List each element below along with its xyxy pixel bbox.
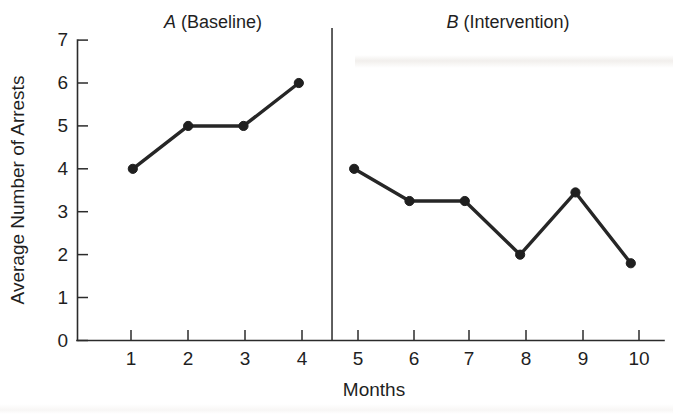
series-a-point-2 xyxy=(184,121,193,130)
y-tick-label-5: 5 xyxy=(57,115,68,136)
phase-b-rest: (Intervention) xyxy=(458,12,569,32)
y-tick-label-1: 1 xyxy=(57,287,68,308)
x-tick-label-3: 3 xyxy=(240,348,251,369)
y-axis-title: Average Number of Arrests xyxy=(7,76,28,305)
x-tick-label-5: 5 xyxy=(353,348,364,369)
series-b-line xyxy=(354,169,631,263)
x-tick-label-10: 10 xyxy=(628,348,649,369)
series-b-point-9 xyxy=(571,188,580,197)
y-tick-label-0: 0 xyxy=(57,330,68,351)
x-tick-label-8: 8 xyxy=(521,348,532,369)
y-tick-label-2: 2 xyxy=(57,244,68,265)
x-axis-title: Months xyxy=(343,379,405,400)
phase-b-letter: B xyxy=(446,12,458,32)
chart-figure: 0 1 2 3 4 5 6 7 1 2 3 4 5 6 7 8 9 10 Mon… xyxy=(0,0,673,414)
series-a-line xyxy=(133,83,299,169)
series-b-point-10 xyxy=(626,259,635,268)
x-tick-label-1: 1 xyxy=(126,348,137,369)
chart-plot-area: 0 1 2 3 4 5 6 7 1 2 3 4 5 6 7 8 9 10 Mon… xyxy=(0,0,673,414)
y-tick-label-4: 4 xyxy=(57,158,68,179)
series-a-point-4 xyxy=(294,78,303,87)
x-tick-label-4: 4 xyxy=(297,348,308,369)
phase-a-letter: A xyxy=(163,12,176,32)
x-tick-label-9: 9 xyxy=(578,348,589,369)
series-b-point-7 xyxy=(460,196,469,205)
series-b-point-5 xyxy=(350,164,359,173)
y-tick-label-3: 3 xyxy=(57,201,68,222)
series-b-point-8 xyxy=(516,250,525,259)
phase-a-rest: (Baseline) xyxy=(176,12,262,32)
phase-a-label: A (Baseline) xyxy=(163,12,262,32)
y-tick-label-7: 7 xyxy=(57,29,68,50)
phase-b-label: B (Intervention) xyxy=(446,12,569,32)
x-tick-label-6: 6 xyxy=(409,348,420,369)
series-a-point-3 xyxy=(239,121,248,130)
series-b-point-6 xyxy=(405,196,414,205)
y-tick-label-6: 6 xyxy=(57,72,68,93)
x-tick-label-7: 7 xyxy=(464,348,475,369)
series-a-point-1 xyxy=(128,164,137,173)
x-tick-label-2: 2 xyxy=(183,348,194,369)
